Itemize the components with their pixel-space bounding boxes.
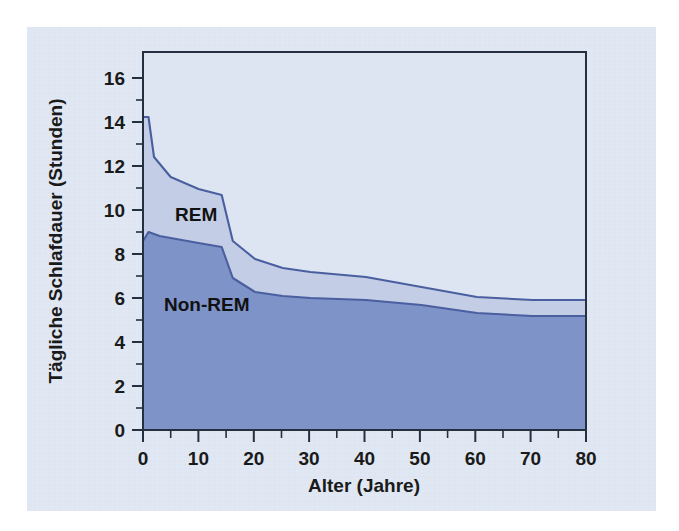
rem-series-label: REM [175,204,217,225]
y-tick-label-10: 10 [104,200,125,221]
y-axis-title: Tägliche Schlafdauer (Stunden) [45,98,66,383]
y-axis-ticks [132,78,143,430]
y-tick-label-14: 14 [104,112,126,133]
y-axis-tick-labels: 16 14 12 10 8 6 4 2 0 [104,68,126,441]
y-tick-label-16: 16 [104,68,125,89]
y-tick-label-6: 6 [114,288,125,309]
y-tick-label-8: 8 [114,244,125,265]
x-axis-title: Alter (Jahre) [308,475,420,496]
x-tick-label-40: 40 [354,448,375,469]
figure-root: 16 14 12 10 8 6 4 2 0 [0,0,679,531]
y-tick-label-12: 12 [104,156,125,177]
x-tick-label-80: 80 [575,448,596,469]
y-tick-label-4: 4 [114,332,125,353]
x-tick-label-60: 60 [465,448,486,469]
x-tick-label-10: 10 [188,448,209,469]
sleep-duration-area-chart: 16 14 12 10 8 6 4 2 0 [0,0,679,531]
y-tick-label-2: 2 [114,376,125,397]
x-axis-tick-labels: 0 10 20 30 40 50 60 70 80 [138,448,597,469]
x-axis-ticks [143,430,586,442]
y-tick-label-0: 0 [114,420,125,441]
nonrem-series-label: Non-REM [164,294,249,315]
x-tick-label-20: 20 [243,448,264,469]
x-tick-label-0: 0 [138,448,149,469]
x-tick-label-30: 30 [299,448,320,469]
x-tick-label-50: 50 [409,448,430,469]
x-tick-label-70: 70 [520,448,541,469]
